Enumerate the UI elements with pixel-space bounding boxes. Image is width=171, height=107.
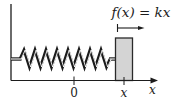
position-tick-label: x [121, 86, 128, 100]
spring-mass-figure: f(x) = kx 0 x x [0, 0, 171, 107]
spring-mass-diagram-svg: f(x) = kx 0 x x [0, 0, 171, 107]
block [116, 38, 133, 81]
force-equation-label: f(x) = kx [111, 4, 171, 20]
force-arrow-arrowhead-icon [138, 26, 145, 30]
x-axis-label: x [149, 83, 156, 97]
origin-tick-label: 0 [70, 86, 78, 100]
